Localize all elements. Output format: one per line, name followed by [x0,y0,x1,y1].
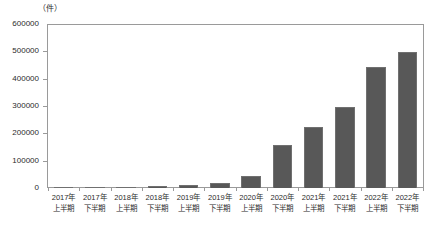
bar-slot [329,25,360,188]
x-axis-category-label-line: 下半期 [392,203,423,214]
y-axis-tick-label: 500000 [12,46,39,55]
x-axis-category-label: 2020年下半期 [267,192,298,232]
x-axis-category-label-line: 2021年 [329,192,360,203]
x-axis-category-label-line: 2021年 [298,192,329,203]
y-axis-tick-mark [43,79,47,80]
x-axis-category-label-line: 2019年 [204,192,235,203]
bar [241,176,260,188]
x-axis-category-label-line: 下半期 [267,203,298,214]
x-axis-category-label-line: 下半期 [204,203,235,214]
x-axis-category-label-line: 2017年 [48,192,79,203]
x-axis-category-label-line: 上半期 [173,203,204,214]
y-axis-tick-mark [43,51,47,52]
bar [335,107,354,189]
y-axis-tick-label: 200000 [12,128,39,137]
x-axis-tick-mark [79,188,80,191]
x-axis-category-label: 2019年下半期 [204,192,235,232]
x-axis-category-label-line: 上半期 [298,203,329,214]
bar [366,67,385,188]
bar-slot [267,25,298,188]
x-axis-category-label-line: 上半期 [361,203,392,214]
x-axis-tick-mark [423,188,424,191]
x-axis-category-label-line: 下半期 [142,203,173,214]
bar-slot [392,25,423,188]
x-axis-tick-mark [111,188,112,191]
bar-slot [79,25,110,188]
bar [304,127,323,188]
bar-slot [204,25,235,188]
bar-slot [142,25,173,188]
x-axis-category-label-line: 2018年 [111,192,142,203]
x-axis-category-label-line: 2017年 [79,192,110,203]
x-axis-category-label: 2022年下半期 [392,192,423,232]
x-axis-category-label-line: 下半期 [79,203,110,214]
y-axis-tick-mark [43,106,47,107]
x-axis-category-label: 2018年下半期 [142,192,173,232]
x-axis-tick-mark [173,188,174,191]
bar-slot [361,25,392,188]
x-axis-tick-mark [267,188,268,191]
y-axis-tick-label: 300000 [12,101,39,110]
y-axis-tick-label: 0 [35,183,39,192]
bars-container [48,25,423,188]
x-axis-tick-mark [204,188,205,191]
bar-slot [298,25,329,188]
bar-chart: （件） 600000500000400000300000200000100000… [0,0,433,233]
y-axis-tick-label: 600000 [12,19,39,28]
x-axis-tick-mark [236,188,237,191]
x-axis-category-label: 2020年上半期 [236,192,267,232]
bar-slot [173,25,204,188]
x-axis-category-label: 2019年上半期 [173,192,204,232]
x-axis-category-label-line: 2022年 [392,192,423,203]
x-axis-category-label: 2021年下半期 [329,192,360,232]
x-axis-category-label: 2017年下半期 [79,192,110,232]
x-axis-category-label-line: 上半期 [48,203,79,214]
x-axis-category-label: 2022年上半期 [361,192,392,232]
y-axis-unit-label: （件） [26,2,74,13]
x-axis-category-label: 2018年上半期 [111,192,142,232]
x-axis-tick-mark [361,188,362,191]
y-axis-tick-label: 400000 [12,74,39,83]
x-axis-tick-mark [298,188,299,191]
x-axis-category-label-line: 下半期 [329,203,360,214]
bar [398,52,417,188]
bar-slot [236,25,267,188]
x-axis-category-label-line: 2019年 [173,192,204,203]
x-axis-category-label-line: 2020年 [236,192,267,203]
y-axis-tick-label: 100000 [12,156,39,165]
y-axis-tick-mark [43,161,47,162]
bar [273,145,292,188]
x-axis-labels: 2017年上半期2017年下半期2018年上半期2018年下半期2019年上半期… [48,192,423,232]
x-axis-category-label: 2021年上半期 [298,192,329,232]
x-axis-tick-mark [142,188,143,191]
bar-slot [48,25,79,188]
x-axis-category-label-line: 2018年 [142,192,173,203]
x-axis-category-label-line: 上半期 [111,203,142,214]
x-axis-category-label-line: 2022年 [361,192,392,203]
x-axis-category-label-line: 上半期 [236,203,267,214]
y-axis-tick-mark [43,133,47,134]
x-axis-tick-mark [329,188,330,191]
x-axis-category-label: 2017年上半期 [48,192,79,232]
x-axis-tick-mark [392,188,393,191]
x-axis-category-label-line: 2020年 [267,192,298,203]
bar-slot [111,25,142,188]
x-axis-tick-mark [48,188,49,191]
